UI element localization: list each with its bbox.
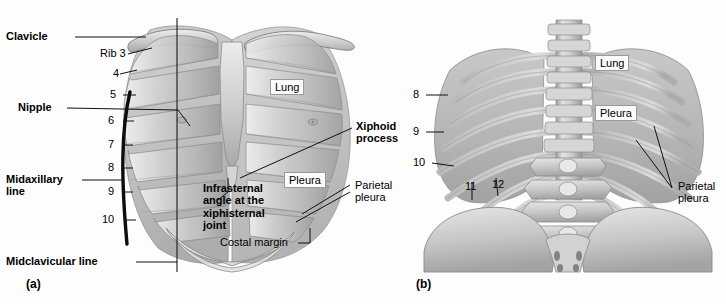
label-nipple: Nipple [18, 101, 52, 113]
panel-a-anterior-view: Clavicle Rib 3 4 5 6 7 8 9 10 Nipple Mid… [0, 0, 410, 304]
label-xiphoid-row2: process [356, 132, 398, 144]
label-parietal-pleura-a-row2: pleura [355, 191, 392, 203]
label-costal-margin: Costal margin [220, 236, 288, 248]
label-infrasternal-row4: joint [203, 219, 265, 231]
label-midaxillary-line: Midaxillary line [6, 173, 63, 198]
label-lung-panel-a: Lung [270, 79, 304, 95]
label-parietal-pleura-b-row1: Parietal [678, 180, 715, 192]
rib-number-11-panel-b: 11 [465, 180, 476, 192]
label-infrasternal-row1: Infrasternal [203, 182, 265, 194]
label-xiphoid-row1: Xiphoid [356, 120, 398, 132]
panel-a-tag: (a) [26, 278, 41, 291]
rib-number-10-panel-b: 10 [413, 156, 425, 168]
label-infrasternal-row3: xiphisternal [203, 207, 265, 219]
label-midaxillary-line-row1: Midaxillary [6, 173, 63, 185]
rib-number-5: 5 [110, 88, 116, 100]
rib-number-8: 8 [108, 161, 114, 173]
label-parietal-pleura-b-row2: pleura [678, 192, 715, 204]
panel-b-posterior-view: 8 9 10 11 12 Lung Pleura Parietal pleura… [410, 0, 726, 304]
panel-b-tag: (b) [416, 278, 431, 291]
rib-number-10: 10 [102, 213, 114, 225]
label-infrasternal-angle: Infrasternal angle at the xiphisternal j… [203, 182, 265, 231]
label-rib-3: Rib 3 [100, 47, 126, 59]
rib-number-12-panel-b: 12 [492, 178, 504, 190]
label-pleura-panel-b: Pleura [595, 105, 637, 121]
anatomy-figure: Clavicle Rib 3 4 5 6 7 8 9 10 Nipple Mid… [0, 0, 726, 304]
label-midclavicular-line: Midclavicular line [6, 255, 98, 267]
label-infrasternal-row2: angle at the [203, 194, 265, 206]
label-midaxillary-line-row2: line [6, 185, 63, 197]
rib-number-8-panel-b: 8 [413, 88, 419, 100]
label-pleura-panel-a: Pleura [284, 172, 326, 188]
panel-b-illustration [410, 0, 726, 304]
label-parietal-pleura-a-row1: Parietal [355, 179, 392, 191]
label-lung-panel-b: Lung [595, 55, 629, 71]
rib-number-9: 9 [108, 185, 114, 197]
label-clavicle: Clavicle [6, 30, 48, 42]
rib-number-6: 6 [108, 114, 114, 126]
rib-number-4: 4 [113, 67, 119, 79]
label-parietal-pleura-panel-b: Parietal pleura [678, 180, 715, 205]
label-xiphoid-process: Xiphoid process [356, 120, 398, 145]
label-parietal-pleura-panel-a: Parietal pleura [355, 179, 392, 204]
rib-number-7: 7 [108, 138, 114, 150]
rib-number-9-panel-b: 9 [413, 125, 419, 137]
